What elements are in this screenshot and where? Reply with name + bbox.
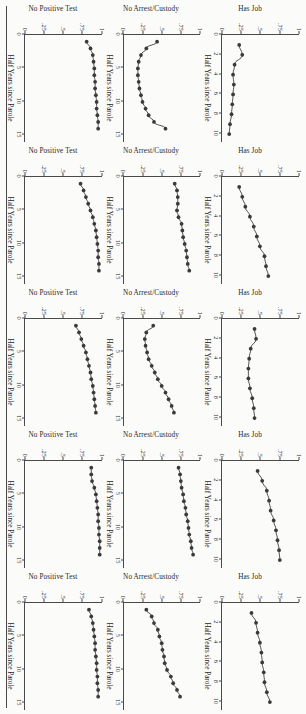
data-point — [175, 688, 179, 692]
data-point — [228, 122, 232, 126]
x-tick-mark — [121, 702, 124, 703]
data-point — [94, 411, 98, 415]
x-tick-mark — [219, 559, 222, 560]
data-point — [89, 377, 93, 381]
chart-panel-r1c4: Has Job0.25.5.7510246810Half Years since… — [201, 428, 300, 570]
x-tick-mark — [219, 113, 222, 114]
x-tick-mark — [121, 276, 124, 277]
x-tick-mark — [219, 539, 222, 540]
plot-area-r3c2 — [24, 176, 102, 284]
data-point — [95, 675, 99, 679]
data-point — [185, 249, 189, 253]
plot-column-r2c3: 051015Half Years since Parole — [103, 318, 201, 426]
data-point — [172, 411, 176, 415]
x-axis-label-r2c3: Half Years since Parole — [103, 318, 114, 426]
data-point — [230, 112, 234, 116]
data-point — [250, 611, 254, 615]
data-point — [97, 546, 101, 550]
plot-area-r2c2 — [123, 176, 201, 284]
chart-panel-r2c4: No Arrest/Custody0.25.5.751051015Half Ye… — [103, 428, 202, 570]
y-tick-label: .25 — [139, 449, 145, 457]
x-axis-label-r2c5: Half Years since Parole — [103, 602, 114, 710]
y-axis-label-r3c3: No Positive Test — [4, 287, 102, 298]
data-point — [84, 40, 88, 44]
data-point — [182, 493, 186, 497]
rotated-figure-wrapper: Has Job0.25.5.7510246810Half Years since… — [0, 0, 306, 714]
data-point — [88, 371, 92, 375]
data-point — [91, 60, 95, 64]
panel-row-no-positive-test: No Positive Test0.25.5.751051015Half Yea… — [4, 2, 103, 712]
x-tick-mark — [22, 318, 25, 319]
data-point — [231, 73, 235, 77]
data-point — [94, 493, 98, 497]
data-point — [260, 479, 264, 483]
data-point — [152, 120, 156, 124]
y-tick-label: .75 — [277, 449, 283, 457]
data-point — [96, 688, 100, 692]
data-point — [93, 80, 97, 84]
x-tick-mark — [219, 318, 222, 319]
y-tick-label: .25 — [238, 591, 244, 599]
x-tick-mark — [22, 176, 25, 177]
data-point — [274, 528, 278, 532]
data-point — [268, 700, 272, 704]
y-axis-label-r2c1: No Arrest/Custody — [103, 3, 201, 14]
y-tick-column-r3c2: 0.25.5.751 — [4, 156, 102, 176]
data-point — [136, 67, 140, 71]
x-axis-label-r2c4: Half Years since Parole — [103, 460, 114, 568]
x-tick-mark — [121, 635, 124, 636]
data-point — [247, 377, 251, 381]
y-tick-column-r1c5: 0.25.5.751 — [201, 582, 299, 602]
y-tick-label: .75 — [178, 165, 184, 173]
data-point — [258, 641, 262, 645]
plot-column-r1c1: 0246810Half Years since Parole — [201, 34, 299, 142]
data-point — [81, 188, 85, 192]
x-tick-mark — [22, 460, 25, 461]
plot-area-r3c4 — [24, 460, 102, 568]
data-point — [92, 635, 96, 639]
data-point — [94, 100, 98, 104]
data-point — [185, 255, 189, 259]
y-tick-column-r1c2: 0.25.5.751 — [201, 156, 299, 176]
plot-column-r2c1: 051015Half Years since Parole — [103, 34, 201, 142]
plot-area-r1c4 — [221, 460, 299, 568]
data-point — [92, 486, 96, 490]
data-point — [92, 73, 96, 77]
y-axis-label-text: No Arrest/Custody — [124, 431, 180, 439]
series-canvas-r1c4 — [222, 461, 299, 568]
data-point — [153, 371, 157, 375]
y-tick-label: .75 — [277, 307, 283, 315]
plot-area-r1c3 — [221, 318, 299, 426]
x-tick-mark — [121, 242, 124, 243]
data-point — [179, 472, 183, 476]
y-tick-label: .75 — [178, 591, 184, 599]
data-point — [91, 621, 95, 625]
data-point — [167, 397, 171, 401]
panel-row-no-arrest-custody: No Arrest/Custody0.25.5.751051015Half Ye… — [103, 2, 202, 712]
data-point — [175, 188, 179, 192]
data-point — [173, 182, 177, 186]
data-point — [252, 225, 256, 229]
data-point — [84, 351, 88, 355]
data-point — [79, 337, 83, 341]
y-tick-label: .75 — [178, 23, 184, 31]
y-tick-label: .25 — [139, 307, 145, 315]
y-tick-label: .25 — [41, 449, 47, 457]
data-point — [150, 614, 154, 618]
data-point — [243, 205, 247, 209]
x-axis-label-r2c2: Half Years since Parole — [103, 176, 114, 284]
series-canvas-r3c2 — [25, 177, 102, 284]
x-tick-mark — [219, 133, 222, 134]
data-point — [81, 344, 85, 348]
x-tick-row-r1c5: 0246810 — [212, 602, 221, 710]
data-point — [150, 364, 154, 368]
chart-panel-r1c1: Has Job0.25.5.7510246810Half Years since… — [201, 2, 300, 144]
x-tick-mark — [121, 602, 124, 603]
data-point — [278, 558, 282, 562]
y-tick-label: .25 — [238, 23, 244, 31]
data-point — [254, 621, 258, 625]
x-tick-row-r2c1: 051015 — [114, 34, 123, 142]
y-axis-label-text: Has Job — [238, 147, 262, 155]
x-tick-mark — [219, 34, 222, 35]
x-tick-mark — [121, 460, 124, 461]
